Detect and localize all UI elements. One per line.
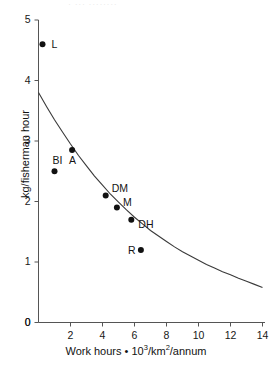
data-point: [114, 205, 120, 211]
data-point-label: BI: [53, 155, 63, 166]
plot-canvas: [0, 0, 272, 373]
data-point: [103, 192, 109, 198]
x-tick-label: 2: [62, 330, 80, 341]
data-point-label: A: [69, 155, 76, 166]
data-point: [69, 147, 75, 153]
data-point: [128, 217, 134, 223]
data-point-label: M: [123, 197, 132, 208]
x-axis-title-suffix: /annum: [170, 345, 207, 357]
data-point: [138, 247, 144, 253]
x-tick-label: 10: [190, 330, 208, 341]
y-axis-title: kg/fisherman hour: [19, 84, 31, 224]
data-point: [52, 168, 58, 174]
data-point-label: DH: [138, 219, 153, 230]
x-tick-label: 6: [126, 330, 144, 341]
x-tick-label: 12: [222, 330, 240, 341]
x-axis-title-mid: /km: [148, 345, 166, 357]
x-tick-label: 0: [15, 317, 31, 328]
x-tick-label: 8: [158, 330, 176, 341]
x-tick-label: 14: [254, 330, 272, 341]
x-axis-ticks: [71, 323, 263, 327]
scatter-plot-figure: · ··· ········ 012345 02468101214 LBIADM…: [0, 0, 272, 373]
y-tick-label: 1: [15, 256, 31, 267]
x-axis-title-prefix: Work hours • 10: [65, 345, 143, 357]
data-point-label: L: [52, 39, 58, 50]
y-axis-ticks: [35, 20, 39, 323]
fitted-curve: [39, 93, 263, 288]
x-axis-title: Work hours • 103/km2/annum: [0, 345, 272, 358]
y-tick-label: 5: [15, 14, 31, 25]
data-point: [40, 41, 46, 47]
data-point-label: R: [128, 245, 136, 256]
axes-lines: [39, 20, 266, 323]
x-tick-label: 4: [94, 330, 112, 341]
data-points: [40, 41, 144, 253]
data-point-label: DM: [112, 183, 128, 194]
